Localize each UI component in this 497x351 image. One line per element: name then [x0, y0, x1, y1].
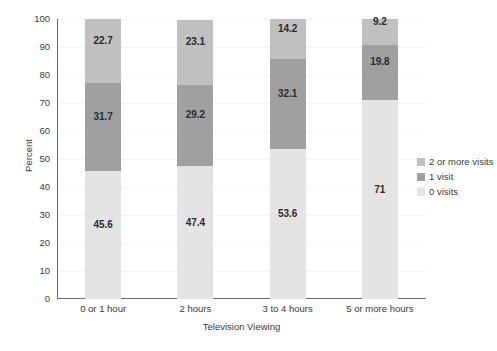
- bar-stack: 47.429.223.1: [177, 19, 213, 299]
- y-axis-tick-label: 50: [22, 154, 50, 164]
- x-axis-tick-label: 3 to 4 hours: [242, 303, 334, 314]
- legend-item-label: 0 visits: [429, 186, 458, 197]
- y-axis-tick-label: 10: [22, 266, 50, 276]
- bar-segment[interactable]: [362, 45, 398, 100]
- bar-group[interactable]: 7119.89.2: [362, 19, 398, 299]
- y-axis-tick-label: 100: [22, 14, 50, 24]
- legend-item[interactable]: 0 visits: [417, 186, 495, 197]
- y-axis-tick-label: 70: [22, 98, 50, 108]
- legend-item[interactable]: 2 or more visits: [417, 156, 495, 167]
- y-axis-tick-label: 0: [22, 294, 50, 304]
- bar-segment[interactable]: [362, 100, 398, 299]
- x-axis-title: Television Viewing: [57, 321, 426, 332]
- chart-legend: 2 or more visits1 visit0 visits: [417, 156, 495, 201]
- bar-segment[interactable]: [270, 59, 306, 149]
- legend-swatch-icon: [417, 173, 425, 181]
- bar-segment[interactable]: [177, 166, 213, 299]
- legend-swatch-icon: [417, 188, 425, 196]
- x-axis-tick-label: 0 or 1 hour: [57, 303, 149, 314]
- bar-stack: 7119.89.2: [362, 19, 398, 299]
- bar-stack: 45.631.722.7: [85, 19, 121, 299]
- bar-stack: 53.632.114.2: [270, 19, 306, 299]
- bar-series-container: 45.631.722.747.429.223.153.632.114.27119…: [57, 19, 426, 299]
- y-axis-tick-label: 80: [22, 70, 50, 80]
- bar-segment[interactable]: [362, 19, 398, 45]
- bar-segment[interactable]: [270, 19, 306, 59]
- x-axis-tick-label: 2 hours: [149, 303, 241, 314]
- bar-group[interactable]: 47.429.223.1: [177, 19, 213, 299]
- legend-item-label: 1 visit: [429, 171, 453, 182]
- x-axis-tick-labels: 0 or 1 hour2 hours3 to 4 hours5 or more …: [57, 303, 426, 319]
- x-axis-tick-label: 5 or more hours: [334, 303, 426, 314]
- plot-area: 45.631.722.747.429.223.153.632.114.27119…: [57, 19, 426, 299]
- bar-segment[interactable]: [270, 149, 306, 299]
- bar-segment[interactable]: [85, 171, 121, 299]
- bar-group[interactable]: 45.631.722.7: [85, 19, 121, 299]
- legend-item-label: 2 or more visits: [429, 156, 493, 167]
- legend-swatch-icon: [417, 158, 425, 166]
- y-axis-tick-label: 30: [22, 210, 50, 220]
- stacked-bar-chart: Percent 1009080706050403020100 45.631.72…: [0, 0, 497, 351]
- bar-segment[interactable]: [177, 85, 213, 167]
- bar-group[interactable]: 53.632.114.2: [270, 19, 306, 299]
- y-axis-tick-label: 60: [22, 126, 50, 136]
- y-axis-tick-labels: 1009080706050403020100: [22, 19, 50, 299]
- y-axis-tick-label: 20: [22, 238, 50, 248]
- bar-segment[interactable]: [177, 20, 213, 85]
- legend-item[interactable]: 1 visit: [417, 171, 495, 182]
- y-axis-tick-label: 90: [22, 42, 50, 52]
- bar-segment[interactable]: [85, 83, 121, 172]
- bar-segment[interactable]: [85, 19, 121, 83]
- y-axis-tick-label: 40: [22, 182, 50, 192]
